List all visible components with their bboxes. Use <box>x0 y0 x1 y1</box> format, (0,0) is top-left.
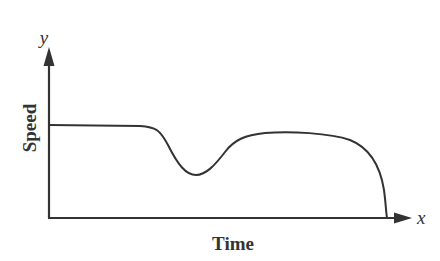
y-axis-arrow-icon <box>44 47 55 66</box>
speed-time-graph: y x Time Speed <box>0 0 440 261</box>
x-axis-arrow-icon <box>394 213 412 224</box>
x-axis-title: Time <box>212 233 254 254</box>
y-var-label: y <box>38 27 49 48</box>
x-var-label: x <box>416 207 426 228</box>
y-axis-title: Speed <box>19 103 40 152</box>
speed-curve <box>50 125 387 218</box>
